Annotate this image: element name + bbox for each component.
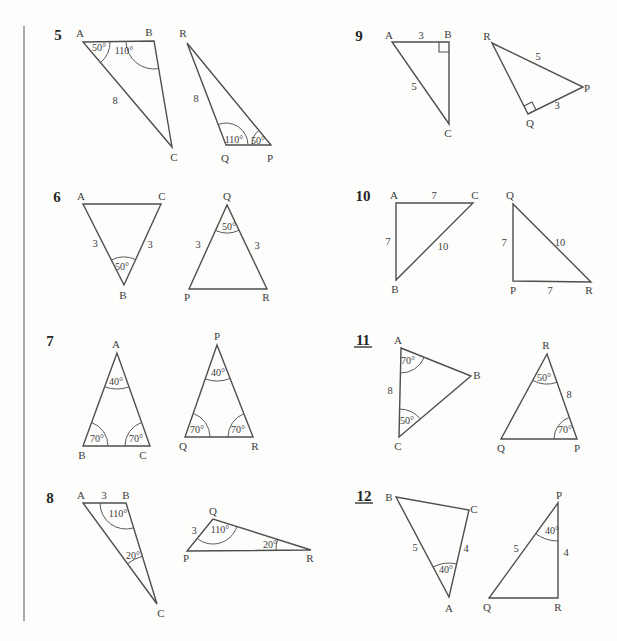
vertex-label: A — [445, 602, 453, 614]
vertex-label: C — [139, 449, 146, 461]
side-length-label: 5 — [412, 542, 417, 553]
side-length-label: 3 — [191, 525, 196, 536]
vertex-label: Q — [221, 152, 229, 164]
side-length-label: 5 — [535, 51, 540, 62]
angle-label: 110° — [109, 508, 128, 519]
problem-number: 11 — [356, 332, 370, 348]
worksheet-canvas: 5ABC850°110°RQP8110°50°6ACB3350°QPR3350°… — [0, 0, 617, 641]
triangle-outline — [396, 497, 469, 597]
vertex-label: C — [158, 190, 165, 202]
vertex-label: R — [262, 291, 270, 303]
vertex-label: C — [170, 151, 177, 163]
vertex-label: R — [542, 339, 550, 351]
side-length-label: 5 — [513, 543, 518, 554]
side-length-label: 5 — [411, 81, 416, 92]
vertex-label: A — [112, 338, 120, 350]
vertex-label: Q — [483, 601, 491, 613]
problem-number: 6 — [53, 189, 61, 205]
vertex-label: B — [391, 283, 398, 295]
problem-9: 9ABC35RPQ53 — [355, 28, 590, 139]
triangle-ABC: ABC40°70°70° — [78, 338, 150, 461]
side-length-label: 8 — [112, 95, 117, 106]
right-angle-mark — [439, 42, 449, 52]
angle-label: 70° — [190, 424, 204, 435]
side-length-label: 3 — [195, 239, 200, 250]
angle-label: 40° — [109, 376, 123, 387]
vertex-label: B — [473, 369, 480, 381]
side-length-label: 3 — [554, 100, 559, 111]
vertex-label: P — [556, 489, 562, 501]
problem-number: 5 — [54, 27, 62, 43]
angle-label: 20° — [263, 539, 277, 550]
side-length-label: 4 — [563, 547, 569, 558]
vertex-label: A — [385, 29, 393, 41]
vertex-label: P — [510, 284, 516, 296]
vertex-label: C — [471, 189, 478, 201]
triangle-RQP: RQP850°70° — [497, 339, 580, 454]
angle-label: 70° — [231, 424, 245, 435]
side-length-label: 8 — [566, 389, 571, 400]
triangle-outline — [396, 203, 473, 280]
angle-label: 110° — [115, 45, 134, 56]
triangle-outline — [83, 41, 172, 147]
side-length-label: 8 — [193, 93, 198, 104]
triangle-ABC: ABC870°50° — [387, 334, 480, 452]
vertex-label: R — [251, 440, 259, 452]
vertex-label: Q — [179, 440, 187, 452]
triangle-RPQ: RPQ53 — [483, 30, 590, 129]
vertex-label: Q — [506, 189, 514, 201]
vertex-label: A — [77, 190, 85, 202]
problem-12: 12BCA5440°PQR5440° — [355, 488, 569, 614]
angle-label: 20° — [126, 550, 140, 561]
side-length-label: 3 — [101, 490, 106, 501]
vertex-label: R — [483, 30, 491, 42]
side-length-label: 4 — [463, 543, 469, 554]
vertex-label: B — [119, 289, 126, 301]
side-length-label: 3 — [418, 30, 423, 41]
angle-label: 70° — [129, 433, 143, 444]
angle-label: 50° — [400, 415, 414, 426]
problem-6: 6ACB3350°QPR3350° — [53, 189, 270, 303]
worksheet-page: 5ABC850°110°RQP8110°50°6ACB3350°QPR3350°… — [0, 0, 617, 641]
vertex-label: C — [470, 503, 477, 515]
vertex-label: B — [145, 26, 152, 38]
problem-number: 8 — [46, 490, 54, 506]
vertex-label: Q — [497, 442, 505, 454]
problem-10: 10ACB7710QPR7107 — [356, 188, 594, 296]
vertex-label: A — [390, 189, 398, 201]
vertex-label: C — [394, 440, 401, 452]
problem-8: 8ABC3110°20°QPR3110°20° — [46, 489, 314, 619]
vertex-label: R — [306, 552, 314, 564]
triangle-outline — [187, 519, 311, 551]
triangle-PQR: PQR5440° — [483, 489, 569, 613]
side-length-label: 7 — [547, 285, 552, 296]
angle-label: 40° — [439, 564, 453, 575]
vertex-label: A — [76, 27, 84, 39]
vertex-label: R — [554, 601, 562, 613]
side-length-label: 8 — [387, 385, 392, 396]
vertex-label: R — [585, 284, 593, 296]
side-length-label: 7 — [385, 236, 390, 247]
triangle-outline — [513, 204, 591, 282]
problem-number: 12 — [357, 488, 372, 504]
vertex-label: R — [179, 27, 187, 39]
side-length-label: 10 — [438, 241, 449, 252]
problem-number: 9 — [355, 28, 363, 44]
angle-label: 50° — [222, 221, 236, 232]
problem-number: 7 — [46, 333, 54, 349]
triangle-ACB: ACB7710 — [385, 189, 478, 295]
angle-label: 40° — [545, 525, 559, 536]
triangle-RQP: RQP8110°50° — [179, 27, 273, 164]
angle-label: 40° — [211, 367, 225, 378]
triangle-QPR: QPR3350° — [184, 190, 270, 303]
vertex-label: B — [444, 28, 451, 40]
vertex-label: P — [214, 330, 220, 342]
side-length-label: 3 — [254, 240, 259, 251]
vertex-label: P — [183, 552, 189, 564]
triangle-outline — [392, 42, 449, 124]
angle-label: 70° — [90, 433, 104, 444]
vertex-label: A — [394, 334, 402, 346]
vertex-label: P — [267, 152, 273, 164]
vertex-label: P — [584, 82, 590, 94]
side-length-label: 7 — [501, 237, 506, 248]
